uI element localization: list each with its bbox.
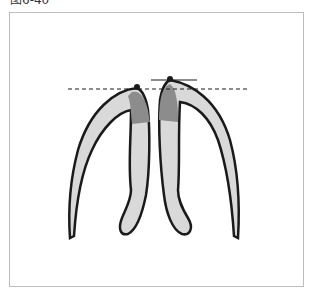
left-tooth (69, 88, 150, 238)
contact-point-right (167, 76, 173, 82)
contact-point-left (134, 84, 140, 90)
right-tooth (159, 80, 239, 238)
tooth-diagram (0, 0, 315, 300)
